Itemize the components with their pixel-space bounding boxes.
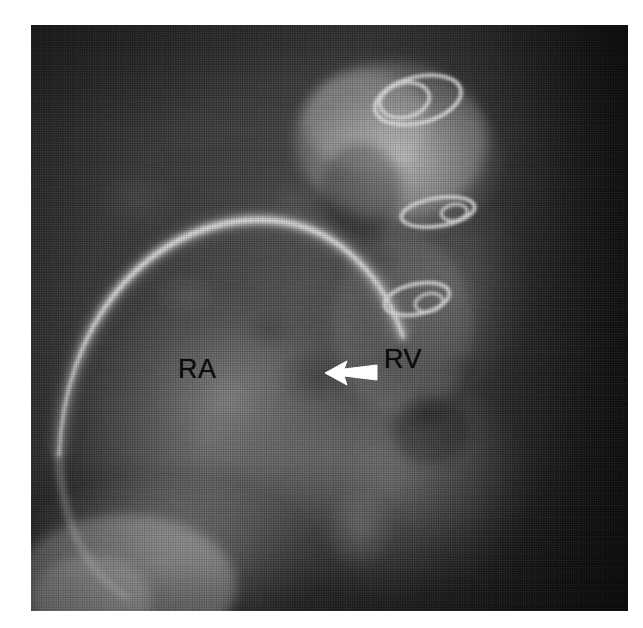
right-heart-border-arc bbox=[31, 25, 628, 611]
arrow-pointer-icon bbox=[323, 355, 379, 389]
radiograph-image: RA RV bbox=[31, 25, 628, 611]
label-right-ventricle: RV bbox=[384, 346, 422, 373]
figure-page: RA RV bbox=[0, 0, 643, 628]
label-right-atrium: RA bbox=[178, 356, 217, 383]
